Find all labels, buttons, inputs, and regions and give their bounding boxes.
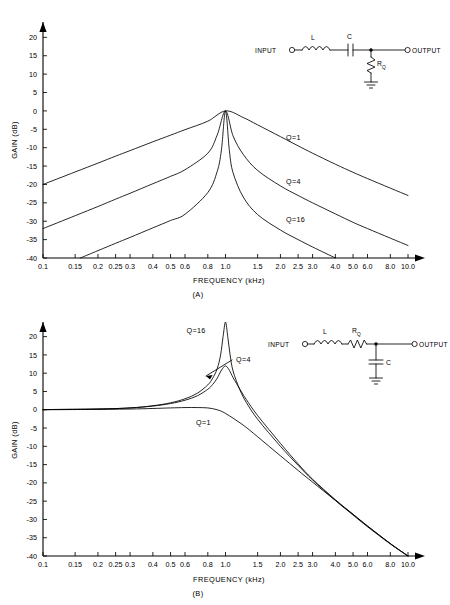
x-tick-label: 4.0	[330, 560, 340, 569]
x-tick-label: 2.5	[293, 262, 303, 271]
panel-a-circuit: INPUT L C OUTPUT R Q	[255, 33, 441, 88]
panel-b-y-ticks: 20151050-5-10-15-20-25-30-35-40	[27, 332, 47, 560]
x-tick-label: 0.5	[166, 262, 176, 271]
x-tick-label: 0.6	[180, 262, 190, 271]
x-tick-label: 0.8	[203, 262, 213, 271]
panel-b-y-axis-label: GAIN (dB)	[10, 421, 19, 459]
x-tick-label: 0.1	[38, 560, 48, 569]
circuit-a-input-label: INPUT	[255, 47, 276, 54]
y-tick-label: -35	[27, 235, 37, 244]
x-tick-label: 0.2	[93, 560, 103, 569]
panel-a: 20151050-5-10-15-20-25-30-35-40 0.10.150…	[0, 0, 450, 302]
y-tick-label: -15	[27, 460, 37, 469]
ground-symbol-a	[365, 82, 378, 88]
x-tick-label: 10.0	[401, 262, 415, 271]
panel-b-circuit: INPUT L R Q OUTPUT C	[268, 327, 448, 384]
circuit-b-capacitor-label: C	[386, 359, 391, 366]
y-tick-label: 5	[33, 88, 37, 97]
y-tick-label: 0	[33, 107, 37, 116]
curve-q4	[43, 111, 408, 246]
x-tick-label: 0.15	[68, 560, 82, 569]
x-tick-label: 6.0	[363, 262, 373, 271]
y-tick-label: -5	[31, 125, 37, 134]
circuit-b-output-label: OUTPUT	[419, 341, 448, 348]
curve-q1	[43, 111, 408, 196]
x-tick-label: 0.1	[38, 262, 48, 271]
y-tick-label: 0	[33, 405, 37, 414]
curve-label-q4: Q=4	[286, 177, 301, 186]
circuit-b-output-terminal	[412, 341, 417, 346]
x-tick-label: 1.0	[221, 560, 231, 569]
x-tick-label: 2.0	[275, 560, 285, 569]
resistor-symbol-rq	[348, 340, 367, 348]
x-tick-label: 8.0	[385, 560, 395, 569]
panel-b-x-axis-label: FREQUENCY (kHz)	[193, 575, 265, 584]
x-tick-label: 0.2	[93, 262, 103, 271]
y-tick-label: -5	[31, 424, 37, 433]
ground-symbol-b	[370, 378, 383, 384]
y-tick-label: -20	[27, 478, 37, 487]
resistor-symbol-rq	[367, 57, 375, 73]
circuit-a-resistor-subscript: Q	[382, 65, 386, 70]
circuit-b-input-label: INPUT	[268, 341, 289, 348]
panel-a-x-axis-label: FREQUENCY (kHz)	[193, 276, 265, 285]
x-tick-label: 0.8	[203, 560, 213, 569]
curve-q16	[43, 322, 408, 556]
circuit-b-inductor-label: L	[323, 328, 327, 335]
y-tick-label: -15	[27, 162, 37, 171]
panel-b-axes	[39, 322, 425, 560]
x-tick-label: 1.5	[253, 262, 263, 271]
x-tick-label: 0.25	[109, 262, 123, 271]
y-axis-arrowhead	[39, 322, 46, 332]
curve-q4	[43, 366, 408, 556]
x-tick-label: 0.4	[148, 262, 158, 271]
y-tick-label: 10	[29, 369, 37, 378]
y-tick-label: 20	[29, 332, 37, 341]
curve-label-q4: Q=4	[236, 355, 251, 364]
x-tick-label: 6.0	[363, 560, 373, 569]
circuit-b-input-terminal	[302, 341, 307, 346]
y-tick-label: -40	[27, 254, 37, 263]
curve-label-q16: Q=16	[187, 326, 206, 335]
panel-a-caption: (A)	[192, 290, 203, 299]
x-axis-arrowhead	[415, 254, 425, 261]
x-tick-label: 10.0	[401, 560, 415, 569]
panel-b-caption: (B)	[192, 589, 203, 598]
panel-b: 20151050-5-10-15-20-25-30-35-40 0.10.150…	[0, 300, 450, 602]
circuit-a-capacitor-label: C	[347, 33, 352, 40]
circuit-a-inductor-label: L	[311, 34, 315, 41]
y-tick-label: -25	[27, 198, 37, 207]
y-tick-label: 15	[29, 351, 37, 360]
x-tick-label: 0.15	[68, 262, 82, 271]
y-tick-label: -30	[27, 515, 37, 524]
y-tick-label: 10	[29, 70, 37, 79]
y-tick-label: -10	[27, 143, 37, 152]
x-tick-label: 1.5	[253, 560, 263, 569]
y-tick-label: -40	[27, 552, 37, 561]
circuit-a-output-terminal	[405, 47, 410, 52]
x-tick-label: 0.6	[180, 560, 190, 569]
curve-label-q16: Q=16	[286, 215, 305, 224]
panel-b-curves	[43, 322, 408, 556]
x-tick-label: 3.0	[308, 560, 318, 569]
y-tick-label: -25	[27, 497, 37, 506]
y-tick-label: 20	[29, 33, 37, 42]
x-tick-label: 2.0	[275, 262, 285, 271]
y-tick-label: -10	[27, 442, 37, 451]
panel-b-x-ticks: 0.10.150.20.250.30.40.50.60.81.01.52.02.…	[38, 552, 415, 569]
curve-label-q1: Q=1	[196, 418, 211, 427]
circuit-b-resistor-subscript: Q	[357, 332, 361, 337]
y-tick-label: -30	[27, 217, 37, 226]
circuit-a-input-terminal	[289, 47, 294, 52]
panel-a-axes	[39, 22, 425, 262]
x-tick-label: 3.0	[308, 262, 318, 271]
panel-a-y-axis-label: GAIN (dB)	[10, 121, 19, 159]
x-tick-label: 0.3	[125, 560, 135, 569]
x-tick-label: 0.3	[125, 262, 135, 271]
panel-a-plot: 20151050-5-10-15-20-25-30-35-40 0.10.150…	[0, 0, 450, 302]
x-tick-label: 5.0	[348, 560, 358, 569]
y-tick-label: -35	[27, 533, 37, 542]
panel-a-curves	[43, 111, 408, 258]
y-tick-label: 15	[29, 51, 37, 60]
x-tick-label: 0.5	[166, 560, 176, 569]
